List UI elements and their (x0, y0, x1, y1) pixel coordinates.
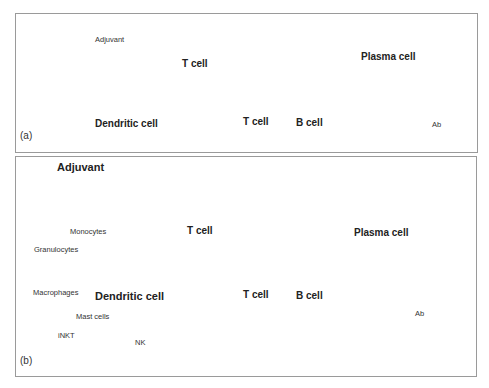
b-cell-label-b: B cell (296, 290, 323, 301)
innate-label-macrophages: Macrophages (33, 288, 78, 297)
panel-tag-a: (a) (20, 130, 32, 141)
panel-tag-b: (b) (20, 355, 32, 366)
t-cell-label-b-2: T cell (243, 289, 269, 300)
adjuvant-label-b: Adjuvant (57, 161, 104, 173)
t-cell-label-b-1: T cell (187, 225, 213, 236)
plasma-cell-label-b: Plasma cell (354, 227, 408, 238)
t-cell-label-a-2: T cell (243, 116, 269, 127)
panel-b (15, 156, 477, 377)
panel-a (15, 13, 478, 153)
dendritic-cell-label-a: Dendritic cell (95, 118, 158, 129)
dendritic-cell-label-b: Dendritic cell (95, 290, 164, 302)
antibody-label-b: Ab (415, 309, 424, 318)
innate-label-inkt: iNKT (58, 331, 75, 340)
plasma-cell-label-a: Plasma cell (361, 51, 415, 62)
b-cell-label-a: B cell (296, 117, 323, 128)
innate-label-nk: NK (135, 338, 145, 347)
innate-label-monocytes: Monocytes (70, 227, 106, 236)
innate-label-granulocytes: Granulocytes (34, 245, 78, 254)
innate-label-mast-cells: Mast cells (76, 312, 109, 321)
adjuvant-label-a: Adjuvant (95, 35, 124, 44)
antibody-label-a: Ab (432, 120, 441, 129)
t-cell-label-a-1: T cell (182, 58, 208, 69)
